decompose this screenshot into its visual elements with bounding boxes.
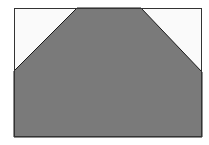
diagram-canvas [0,0,209,145]
